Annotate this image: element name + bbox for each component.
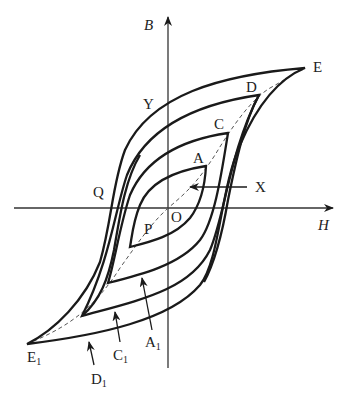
point-e1-label: E1 xyxy=(27,350,41,367)
point-p-label: P xyxy=(144,222,152,237)
d1-base: D xyxy=(91,371,102,387)
point-q-label: Q xyxy=(93,185,104,200)
c1-sub: 1 xyxy=(123,354,128,365)
e1-sub: 1 xyxy=(36,356,41,367)
point-e-label: E xyxy=(313,60,322,75)
hysteresis-loop-e xyxy=(27,68,305,344)
h-axis-label: H xyxy=(318,218,329,233)
d1-sub: 1 xyxy=(102,378,107,389)
origin-label: O xyxy=(171,210,182,225)
arrow-a1 xyxy=(142,278,152,330)
initial-magnetization-curve xyxy=(27,68,305,344)
b-axis-label: B xyxy=(144,18,153,33)
point-a-label: A xyxy=(193,151,204,166)
point-d-label: D xyxy=(246,80,257,95)
point-a1-label: A1 xyxy=(145,335,161,352)
arrow-d1 xyxy=(89,342,94,365)
point-c-label: C xyxy=(214,117,224,132)
point-d1-label: D1 xyxy=(91,372,107,389)
c1-base: C xyxy=(113,347,123,363)
point-c1-label: C1 xyxy=(113,348,128,365)
hysteresis-diagram xyxy=(0,0,344,407)
point-y-label: Y xyxy=(143,97,154,112)
point-x-label: X xyxy=(255,180,266,195)
e1-base: E xyxy=(27,349,36,365)
a1-base: A xyxy=(145,334,156,350)
a1-sub: 1 xyxy=(156,341,161,352)
